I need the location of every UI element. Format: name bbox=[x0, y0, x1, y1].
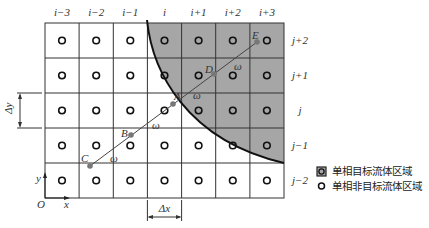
svg-text:i−1: i−1 bbox=[122, 6, 138, 18]
svg-text:i+2: i+2 bbox=[225, 6, 241, 18]
svg-text:j+2: j+2 bbox=[290, 34, 308, 46]
column-labels: i−3 i−2 i−1 i i+1 i+2 i+3 bbox=[54, 6, 275, 18]
row-labels: j+2 j+1 j j−1 j−2 bbox=[290, 34, 308, 186]
svg-text:j+1: j+1 bbox=[290, 69, 308, 81]
legend-label-target: 单相目标流体区域 bbox=[332, 165, 413, 177]
omega-label-ad: ω bbox=[193, 89, 201, 101]
y-axis-label: y bbox=[35, 172, 41, 184]
svg-text:i+1: i+1 bbox=[191, 6, 207, 18]
legend: 单相目标流体区域 单相非目标流体区域 bbox=[317, 165, 423, 192]
omega-label-ba: ω bbox=[152, 119, 160, 131]
svg-text:j−1: j−1 bbox=[290, 139, 308, 151]
circle-icon bbox=[319, 183, 325, 189]
point-label-a: A bbox=[173, 90, 181, 102]
dy-dimension bbox=[17, 93, 42, 128]
legend-label-non-target: 单相非目标流体区域 bbox=[332, 180, 423, 192]
svg-text:i−3: i−3 bbox=[54, 6, 70, 18]
omega-label-de: ω bbox=[234, 60, 242, 72]
point-label-b: B bbox=[121, 127, 128, 139]
grid-diagram: C B A D E ω ω ω ω i−3 i−2 i−1 i i+1 i+2 … bbox=[0, 0, 429, 228]
point-label-d: D bbox=[204, 63, 213, 75]
svg-text:i−2: i−2 bbox=[88, 6, 104, 18]
dy-label: Δy bbox=[2, 103, 14, 115]
svg-text:j: j bbox=[296, 104, 301, 116]
dx-label: Δx bbox=[158, 202, 170, 214]
point-label-e: E bbox=[251, 29, 259, 41]
omega-label-cb: ω bbox=[110, 152, 118, 164]
svg-text:i+3: i+3 bbox=[259, 6, 275, 18]
svg-text:i: i bbox=[163, 6, 166, 18]
origin-label: O bbox=[37, 198, 45, 210]
axes bbox=[43, 172, 70, 200]
svg-text:j−2: j−2 bbox=[290, 174, 308, 186]
x-axis-label: x bbox=[63, 198, 69, 210]
point-label-c: C bbox=[81, 152, 89, 164]
shaded-square-circle-icon bbox=[317, 167, 326, 176]
